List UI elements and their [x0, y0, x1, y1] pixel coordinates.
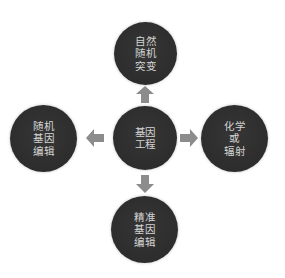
node-precise-gene-editing: 精准 基因 编辑	[111, 196, 178, 263]
node-label: 自然 随机 突变	[135, 35, 156, 73]
node-label: 化学 或 辐射	[224, 120, 245, 158]
arrow-right-icon	[180, 129, 198, 147]
node-genetic-engineering: 基因 工程	[113, 106, 177, 170]
radial-diagram: 自然 随机 突变 基因 工程 随机 基因 编辑 化学 或 辐射 精准 基因 编辑	[0, 0, 285, 278]
node-label: 随机 基因 编辑	[33, 120, 54, 158]
arrow-left-icon	[86, 129, 104, 147]
node-chemical-or-radiation: 化学 或 辐射	[201, 105, 268, 172]
node-label: 基因 工程	[135, 126, 156, 151]
node-random-gene-editing: 随机 基因 编辑	[10, 105, 77, 172]
arrow-up-icon	[136, 86, 154, 103]
node-natural-random-mutation: 自然 随机 突变	[114, 22, 177, 85]
node-label: 精准 基因 编辑	[134, 211, 155, 249]
arrow-down-icon	[136, 175, 154, 193]
